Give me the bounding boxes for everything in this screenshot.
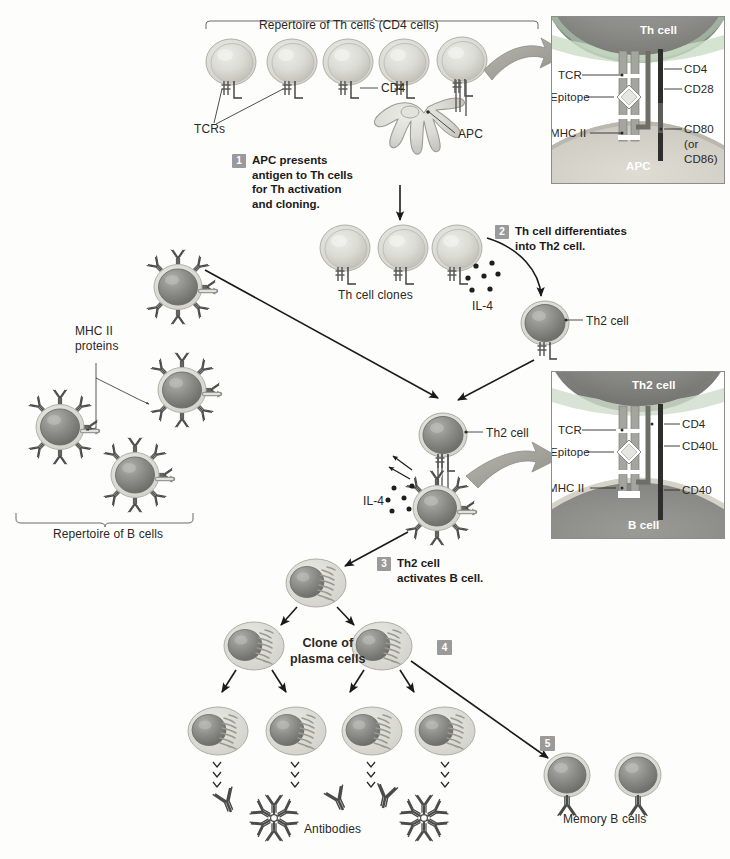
figure-canvas: Th cell APC TCR Epitope MHC II CD4 CD28 … [0, 0, 730, 859]
b-repertoire-bracket [16, 513, 193, 527]
memory-b-cells [544, 753, 661, 816]
inset-top-bottom-cell-label: APC [626, 159, 651, 173]
th2-b-contact [438, 454, 448, 494]
inset-top-label-cd80: CD80 (or CD86) [684, 122, 718, 167]
zoom-arrow-bottom [466, 442, 560, 488]
inset-bottom-label-cd4: CD4 [682, 417, 705, 431]
th2-cell-center [419, 413, 467, 471]
plasma-cell-gen1 [286, 559, 346, 607]
th-apc-contact [456, 80, 466, 116]
mhcii-proteins-label: MHC II proteins [75, 324, 119, 354]
step-1: 1 APC presents antigen to Th cells for T… [232, 153, 412, 212]
step-1-text: APC presents antigen to Th cells for Th … [252, 153, 353, 212]
th-repertoire-label: Repertoire of Th cells (CD4 cells) [259, 18, 439, 33]
step-4-badge: 4 [437, 640, 452, 655]
step-2: 2 Th cell differentiates into Th2 cell. [495, 224, 695, 253]
plasma-arrows-gen2 [222, 670, 414, 692]
step-2-text: Th cell differentiates into Th2 cell. [515, 224, 627, 253]
b-cell-repertoire [29, 353, 222, 513]
th2-cell-label-center: Th2 cell [486, 426, 529, 441]
il4-secretion-arrows [389, 456, 412, 479]
th-clone-row [320, 225, 482, 284]
step-3-text: Th2 cell activates B cell. [397, 556, 483, 585]
tcrs-label: TCRs [194, 122, 225, 137]
b-repertoire-label: Repertoire of B cells [53, 527, 163, 542]
th-cell-row [206, 37, 487, 98]
step-1-badge: 1 [232, 154, 246, 168]
apc-cell [374, 98, 464, 154]
mhcii-leader-lines [86, 363, 149, 430]
inset-top-label-mhcii: MHC II [551, 126, 586, 140]
tcr-leader-lines [214, 89, 283, 124]
inset-top-label-cd4: CD4 [684, 62, 707, 76]
th2-center-leader [464, 430, 483, 433]
inset-top-cell-label: Th cell [640, 23, 677, 37]
inset-th2-bcell-synapse: Th2 cell B cell TCR Epitope MHC II CD4 C… [551, 371, 725, 539]
th2-cell-upper [521, 301, 569, 359]
clone-of-plasma-cells-label: Clone of plasma cells [290, 635, 366, 667]
th2-cell-label-upper: Th2 cell [586, 314, 629, 329]
step-5-badge: 5 [540, 736, 555, 751]
inset-top-label-cd28: CD28 [684, 82, 714, 96]
th-clones-label: Th cell clones [338, 288, 413, 303]
inset-top-label-epitope: Epitope [551, 90, 590, 104]
b-cell-activated [147, 250, 218, 325]
step-3: 3 Th2 cell activates B cell. [377, 556, 527, 585]
step-2-badge: 2 [495, 225, 509, 239]
arrow-to-memory [411, 661, 548, 758]
inset-bottom-label-tcr: TCR [558, 423, 582, 437]
inset-bottom-label-cd40l: CD40L [682, 439, 718, 453]
inset-bottom-cell-label: Th2 cell [632, 378, 676, 392]
apc-label: APC [458, 127, 483, 142]
il4-label-top: IL-4 [472, 299, 493, 314]
inset-bottom-bottom-cell-label: B cell [628, 518, 659, 532]
antibody-secretion-marks [213, 762, 449, 787]
th2-label-leader [564, 318, 583, 321]
inset-bottom-label-cd40: CD40 [682, 483, 712, 497]
il4-dots-top [465, 260, 500, 292]
inset-top-label-tcr: TCR [558, 68, 582, 82]
step-3-badge: 3 [377, 557, 391, 571]
il4-dots-center [386, 484, 415, 514]
inset-bottom-label-epitope: Epitope [551, 445, 590, 459]
inset-bottom-label-mhcii: MHC II [551, 481, 584, 495]
b-cell-center [406, 471, 477, 546]
apc-leader-line [429, 112, 455, 133]
plasma-arrows-gen1 [281, 607, 354, 625]
plasma-cell-gen3 [188, 707, 475, 755]
inset-th-apc-synapse: Th cell APC TCR Epitope MHC II CD4 CD28 … [551, 16, 725, 184]
il4-label-center: IL-4 [363, 494, 384, 509]
cd4-label: CD4 [381, 81, 405, 96]
antibodies-label: Antibodies [304, 822, 361, 837]
memory-b-cells-label: Memory B cells [563, 812, 646, 827]
